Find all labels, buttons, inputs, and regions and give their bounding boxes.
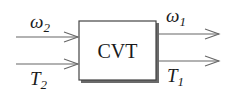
label-t2: T2 xyxy=(30,68,48,92)
cvt-label: CVT xyxy=(98,40,138,62)
label-omega1: ω1 xyxy=(166,5,186,29)
label-omega2: ω2 xyxy=(30,11,50,35)
label-t1: T1 xyxy=(167,65,184,89)
cvt-block-diagram: CVT ω2 T2 ω1 T1 xyxy=(0,0,234,95)
output-arrow-omega1 xyxy=(158,29,219,39)
input-arrow-t2 xyxy=(16,59,78,69)
